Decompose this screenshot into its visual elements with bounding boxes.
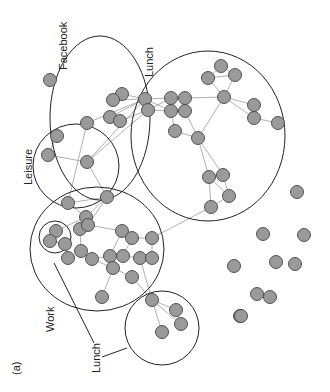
- node: [203, 171, 216, 184]
- network-diagram: [0, 0, 330, 392]
- panel-label: (a): [10, 362, 22, 375]
- node: [96, 291, 109, 304]
- node: [82, 219, 95, 232]
- node: [156, 326, 169, 339]
- edge: [152, 207, 211, 238]
- node: [218, 91, 231, 104]
- node: [298, 229, 311, 242]
- label-lunch-top: Lunch: [143, 47, 155, 77]
- node: [146, 294, 159, 307]
- node: [291, 186, 304, 199]
- node: [81, 117, 94, 130]
- label-work: Work: [44, 307, 56, 332]
- node: [142, 104, 155, 117]
- node: [62, 197, 75, 210]
- node: [205, 201, 218, 214]
- node: [86, 253, 99, 266]
- node: [62, 252, 75, 265]
- node: [223, 190, 236, 203]
- node: [170, 304, 183, 317]
- node: [264, 291, 277, 304]
- node: [248, 112, 261, 125]
- node: [228, 260, 241, 273]
- node: [44, 235, 57, 248]
- node: [270, 256, 283, 269]
- node: [146, 252, 159, 265]
- node: [42, 149, 55, 162]
- node: [272, 117, 285, 130]
- lunch-pointer-line-2: [102, 348, 127, 357]
- node: [165, 105, 178, 118]
- label-leisure: Leisure: [22, 149, 34, 185]
- node: [59, 238, 72, 251]
- node: [114, 115, 127, 128]
- node: [192, 132, 205, 145]
- node: [169, 125, 182, 138]
- node: [51, 130, 64, 143]
- node: [126, 232, 139, 245]
- node: [107, 262, 120, 275]
- node: [146, 232, 159, 245]
- node: [257, 228, 270, 241]
- node: [134, 252, 147, 265]
- node: [81, 156, 94, 169]
- node: [107, 94, 120, 107]
- node: [289, 258, 302, 271]
- node: [202, 72, 215, 85]
- label-facebook: Facebook: [57, 22, 69, 70]
- node: [44, 74, 57, 87]
- node: [251, 288, 264, 301]
- node: [104, 250, 117, 263]
- node: [175, 318, 188, 331]
- node: [179, 105, 192, 118]
- node: [217, 169, 230, 182]
- node: [165, 92, 178, 105]
- node: [248, 99, 261, 112]
- node: [75, 245, 88, 258]
- label-lunch-bottom: Lunch: [90, 343, 102, 373]
- node: [215, 60, 228, 73]
- node: [126, 271, 139, 284]
- node: [229, 69, 242, 82]
- edge: [198, 97, 224, 138]
- nodes: [42, 60, 311, 339]
- node: [179, 92, 192, 105]
- edge: [87, 99, 145, 162]
- lunch-pointer-line-1: [54, 263, 94, 343]
- node: [117, 250, 130, 263]
- node: [235, 310, 248, 323]
- node: [101, 191, 114, 204]
- edges: [48, 66, 278, 332]
